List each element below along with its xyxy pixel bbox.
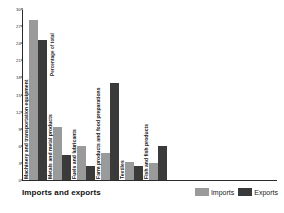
y-tick-label: 6 xyxy=(19,143,21,148)
y-tick-label: 18 xyxy=(16,75,21,80)
chart-title: Imports and exports xyxy=(22,188,101,197)
chart-figure: Percentage of total 036912151821242730 M… xyxy=(0,0,284,213)
plot-area: Percentage of total 036912151821242730 M… xyxy=(22,10,277,181)
legend-label: Exports xyxy=(254,189,278,196)
legend-item-imports[interactable]: Imports xyxy=(195,188,234,196)
bar-exports[interactable] xyxy=(62,155,71,180)
y-tick-label: 24 xyxy=(16,41,21,46)
bar-imports[interactable] xyxy=(53,127,62,180)
bar-group: Metals and metal products xyxy=(53,10,71,180)
y-tick-label: 21 xyxy=(16,58,21,63)
bar-imports[interactable] xyxy=(29,20,38,180)
bar-exports[interactable] xyxy=(158,146,167,180)
bar-exports[interactable] xyxy=(86,166,95,180)
bar-group: Machinery and transportation equipment xyxy=(29,10,47,180)
y-tick-label: 9 xyxy=(19,126,21,131)
legend-label: Imports xyxy=(211,189,234,196)
bar-groups: Machinery and transportation equipmentMe… xyxy=(23,10,277,180)
y-tick-label: 12 xyxy=(16,109,21,114)
bar-imports[interactable] xyxy=(77,146,86,180)
legend-swatch xyxy=(195,188,209,196)
bar-exports[interactable] xyxy=(38,40,47,180)
bar-imports[interactable] xyxy=(125,162,134,180)
bar-imports[interactable] xyxy=(101,153,110,180)
y-tick-label: 3 xyxy=(19,160,21,165)
bar-exports[interactable] xyxy=(134,166,143,180)
bar-group: Farm products and food preparations xyxy=(101,10,119,180)
chart-footer: Imports and exports ImportsExports xyxy=(0,186,284,206)
y-tick-label: 27 xyxy=(16,24,21,29)
y-tick-label: 15 xyxy=(16,92,21,97)
bar-group: Fish and fish products xyxy=(149,10,167,180)
legend-item-exports[interactable]: Exports xyxy=(238,188,278,196)
y-tick-label: 30 xyxy=(16,7,21,12)
plot-inner: Machinery and transportation equipmentMe… xyxy=(23,10,277,180)
bar-imports[interactable] xyxy=(149,163,158,180)
bar-exports[interactable] xyxy=(110,83,119,180)
y-tick-label: 0 xyxy=(19,178,21,183)
bar-group: Textiles xyxy=(125,10,143,180)
bar-group: Fuels and lubricants xyxy=(77,10,95,180)
legend-swatch xyxy=(238,188,252,196)
chart-legend: ImportsExports xyxy=(195,188,278,196)
